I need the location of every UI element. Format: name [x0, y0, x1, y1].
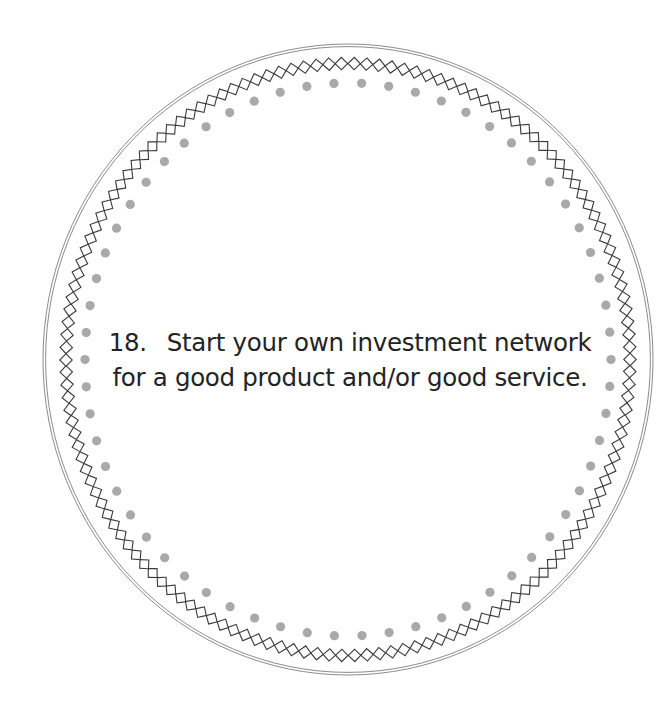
quote-card: 18.Start your own investment network for… — [0, 0, 669, 712]
quote-line-2: for a good product and/or good service. — [100, 360, 600, 395]
quote-line-1: 18.Start your own investment network — [100, 325, 600, 360]
item-number: 18. — [109, 328, 147, 357]
quote-line-1-text: Start your own investment network — [167, 328, 592, 357]
quote-text: 18.Start your own investment network for… — [100, 325, 600, 395]
